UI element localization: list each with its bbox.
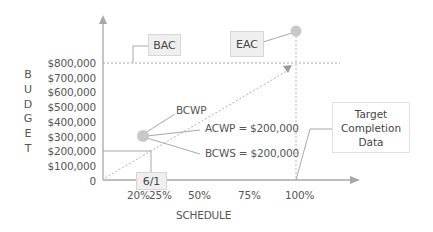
target-line-3: Data	[358, 135, 383, 149]
y-tick: $600,000	[47, 86, 96, 98]
y-tick: $400,000	[47, 116, 96, 128]
status-point	[137, 130, 149, 142]
bcws-connector	[147, 138, 200, 154]
acwp-label: ACWP = $200,000	[205, 122, 299, 134]
y-axis-letter: D	[22, 98, 34, 113]
y-tick: 0	[90, 175, 96, 187]
target-connector	[296, 129, 332, 180]
x-tick: 50%	[188, 189, 211, 201]
bac-connector	[133, 46, 148, 63]
acwp-connector	[147, 130, 200, 136]
x-tick: 25%	[149, 189, 172, 201]
y-tick: $300,000	[47, 131, 96, 143]
eac-connector	[263, 33, 292, 42]
y-tick: $100,000	[47, 160, 96, 172]
y-tick: $700,000	[47, 72, 96, 84]
target-line-1: Target	[355, 107, 387, 121]
x-tick: 75%	[238, 189, 261, 201]
y-tick: $800,000	[47, 57, 96, 69]
y-tick: $500,000	[47, 101, 96, 113]
y-axis-letter: U	[22, 83, 34, 98]
y-axis-arrow-icon	[99, 15, 107, 24]
baseline-arrow-icon	[283, 65, 292, 73]
x-tick: 20%	[127, 189, 150, 201]
y-axis-letter: G	[22, 112, 34, 127]
x-tick: 100%	[285, 189, 314, 201]
y-axis-title: B U D G E T	[22, 68, 34, 157]
status-date-label: 6/1	[136, 172, 167, 190]
status-date-connector	[103, 151, 151, 172]
bcwp-label: BCWP	[176, 104, 206, 116]
x-axis-arrow-icon	[350, 176, 360, 184]
bcws-label: BCWS = $200,000	[205, 147, 299, 159]
y-axis-letter: T	[22, 142, 34, 157]
target-line-2: Completion	[341, 121, 401, 135]
x-axis-title: SCHEDULE	[176, 209, 231, 221]
bcwp-connector	[145, 114, 175, 133]
y-tick: $200,000	[47, 145, 96, 157]
eac-point	[291, 26, 302, 37]
bac-label: BAC	[148, 34, 181, 56]
y-axis-ticks: $800,000 $700,000 $600,000 $500,000 $400…	[40, 57, 96, 187]
eac-label: EAC	[230, 31, 264, 57]
y-axis-letter: B	[22, 68, 34, 83]
target-completion-label: Target Completion Data	[332, 102, 410, 153]
y-axis-letter: E	[22, 127, 34, 142]
